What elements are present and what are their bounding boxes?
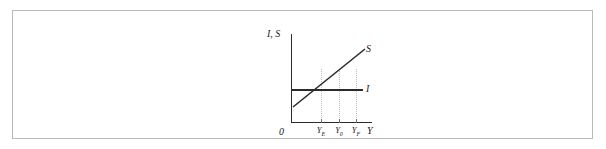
curve-saving-s — [293, 49, 365, 107]
tick-mark-y-e — [321, 119, 322, 123]
tick-label-y-e-sub: E — [322, 131, 326, 137]
tick-label-y-f-sub: F — [357, 131, 361, 137]
curve-label-s: S — [366, 44, 371, 54]
x-axis-title: Y — [367, 126, 373, 136]
y-axis-line — [291, 34, 292, 123]
figure-border: I, S Y 0 S I YE Y0 YF — [12, 10, 593, 139]
tick-label-y-0: Y0 — [335, 126, 343, 137]
x-axis-line — [291, 122, 372, 123]
tick-label-y-0-sub: 0 — [340, 131, 343, 137]
tick-mark-y-0 — [339, 119, 340, 123]
curve-label-i: I — [366, 84, 369, 94]
tick-label-y-f: YF — [352, 126, 360, 137]
curve-investment-i — [291, 89, 363, 91]
tick-label-y-e: YE — [317, 126, 325, 137]
origin-label: 0 — [279, 127, 284, 137]
tick-mark-y-f — [356, 119, 357, 123]
y-axis-title: I, S — [267, 29, 280, 39]
chart-plot-area: I, S Y 0 S I YE Y0 YF — [266, 29, 386, 141]
